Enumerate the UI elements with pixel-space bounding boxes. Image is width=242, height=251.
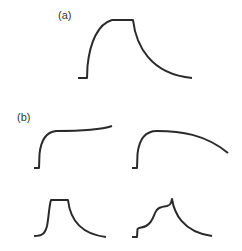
diagram-canvas bbox=[0, 0, 242, 251]
curve-b3 bbox=[34, 200, 106, 237]
curve-b1 bbox=[34, 126, 112, 168]
curve-b2 bbox=[132, 131, 228, 168]
curve-b4 bbox=[132, 199, 212, 237]
curve-a bbox=[78, 20, 192, 78]
